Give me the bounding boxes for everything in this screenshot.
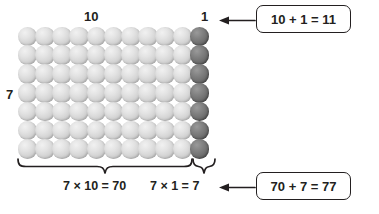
dot-light <box>155 45 175 65</box>
dot-dark <box>190 121 210 141</box>
dot-dark <box>190 83 210 103</box>
columns-count-label: 10 <box>84 10 98 23</box>
dot-light <box>155 139 175 159</box>
dot-dark <box>190 64 210 84</box>
arrow-left-icon-top <box>218 12 256 30</box>
callout-box-top: 10 + 1 = 11 <box>256 5 351 33</box>
dot-light <box>155 121 175 141</box>
dot-dark <box>190 27 210 47</box>
diagram-canvas: 10 1 7 7 × 10 = 70 7 × 1 = 7 10 + 1 = 11 <box>0 0 379 214</box>
tens-product-equation: 7 × 10 = 70 <box>63 180 126 193</box>
dot-light <box>155 83 175 103</box>
curly-brace-icon-ones <box>192 158 216 178</box>
dot-light <box>155 27 175 47</box>
dot-dark <box>190 102 210 122</box>
dot-array <box>19 27 208 159</box>
ones-product-equation: 7 × 1 = 7 <box>150 180 199 193</box>
rows-count-label: 7 <box>6 88 13 101</box>
dot-light <box>155 64 175 84</box>
dot-dark <box>190 139 210 159</box>
callout-box-bottom: 70 + 7 = 77 <box>256 172 351 200</box>
dot-dark <box>190 45 210 65</box>
curly-brace-icon-tens <box>17 158 193 178</box>
arrow-left-icon-bottom <box>218 179 256 197</box>
ones-column-count-label: 1 <box>201 10 208 23</box>
dot-light <box>155 102 175 122</box>
